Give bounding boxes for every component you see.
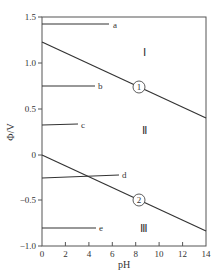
y-tick-label: −1.0 xyxy=(20,241,37,251)
y-axis xyxy=(38,17,42,246)
line-c-label: c xyxy=(81,120,85,130)
line-c xyxy=(42,124,78,125)
y-tick-label: 1.5 xyxy=(25,12,37,22)
line-1 xyxy=(42,42,206,118)
region-1-label: Ⅰ xyxy=(143,46,146,58)
x-axis xyxy=(65,242,182,246)
y-tick-label: 1.0 xyxy=(25,58,37,68)
y-tick-label: 0.5 xyxy=(25,104,37,114)
y-tick-label: −0.5 xyxy=(20,195,37,205)
region-2-label: Ⅱ xyxy=(142,124,147,136)
x-tick-label: 10 xyxy=(155,249,165,259)
x-tick-label: 0 xyxy=(40,249,45,259)
pourbaix-diagram: 1.5 1.0 0.5 0 −0.5 −1.0 0 2 4 6 8 10 12 … xyxy=(0,0,217,277)
x-tick-label: 14 xyxy=(202,249,212,259)
x-tick-label: 2 xyxy=(63,249,68,259)
line-d-label: d xyxy=(122,170,127,180)
x-axis-title: pH xyxy=(118,259,130,270)
x-tick-label: 8 xyxy=(133,249,138,259)
x-tick-label: 12 xyxy=(178,249,187,259)
line-1-marker-label: 1 xyxy=(137,82,142,92)
x-tick-label: 6 xyxy=(110,249,115,259)
y-axis-title: Φ/V xyxy=(5,123,16,141)
line-2-marker-label: 2 xyxy=(137,195,142,205)
line-a-label: a xyxy=(113,20,117,30)
line-e-label: e xyxy=(99,223,103,233)
x-tick-label: 4 xyxy=(87,249,92,259)
plot-frame xyxy=(42,17,206,246)
region-3-label: Ⅲ xyxy=(140,222,148,234)
y-tick-label: 0 xyxy=(32,150,37,160)
line-2 xyxy=(42,155,206,231)
line-d xyxy=(42,175,119,178)
line-b-label: b xyxy=(98,81,103,91)
